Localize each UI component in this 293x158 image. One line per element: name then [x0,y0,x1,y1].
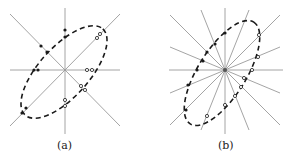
figure-canvas [0,0,293,158]
panel-b-diagram [169,8,283,137]
panel-b-open-markers [205,33,260,117]
panel-a-radial-lines [10,8,120,134]
panel-a-diagram [7,8,122,134]
panel-b-center-point [223,68,227,72]
panel-b-caption: (b) [218,139,234,152]
panel-a-caption: (a) [57,139,72,152]
